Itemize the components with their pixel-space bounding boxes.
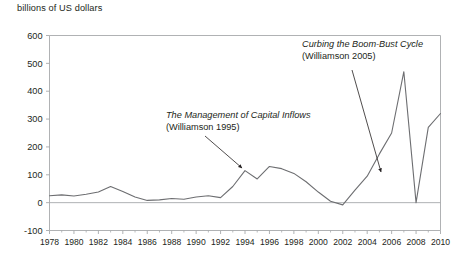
anno-2005-arrow [352, 70, 381, 172]
x-tick-label-2008: 2008 [407, 237, 426, 247]
y-tick-label-500: 500 [27, 59, 42, 69]
anno-1995-arrow [205, 136, 242, 168]
x-tick-label-1982: 1982 [89, 237, 108, 247]
y-tick-label--100: -100 [24, 226, 42, 236]
y-tick-label-0: 0 [37, 198, 42, 208]
x-tick-label-1980: 1980 [64, 237, 83, 247]
anno-2005-citation: (Williamson 2005) [302, 51, 376, 61]
x-tick-label-1990: 1990 [187, 237, 206, 247]
x-tick-label-1984: 1984 [113, 237, 132, 247]
x-tick-label-1986: 1986 [138, 237, 157, 247]
x-tick-label-2006: 2006 [382, 237, 401, 247]
x-tick-label-1978: 1978 [40, 237, 59, 247]
y-tick-label-600: 600 [27, 31, 42, 41]
x-tick-label-1988: 1988 [162, 237, 181, 247]
plot-frame [50, 36, 441, 231]
x-tick-label-2010: 2010 [431, 237, 450, 247]
line-chart-plot: 6005004003002001000-10019781980198219841… [0, 0, 462, 260]
y-tick-label-200: 200 [27, 142, 42, 152]
data-series-0 [50, 72, 441, 205]
x-tick-label-2004: 2004 [358, 237, 377, 247]
y-tick-label-300: 300 [27, 114, 42, 124]
y-tick-label-400: 400 [27, 86, 42, 96]
x-tick-label-1994: 1994 [235, 237, 254, 247]
x-tick-label-1992: 1992 [211, 237, 230, 247]
anno-1995-citation: (Williamson 1995) [166, 122, 240, 132]
x-tick-label-1996: 1996 [260, 237, 279, 247]
chart-container: billions of US dollars 60050040030020010… [0, 0, 462, 260]
x-tick-label-2002: 2002 [333, 237, 352, 247]
anno-2005-title: Curbing the Boom-Bust Cycle [302, 39, 423, 49]
x-tick-label-1998: 1998 [284, 237, 303, 247]
y-tick-label-100: 100 [27, 170, 42, 180]
anno-1995-title: The Management of Capital Inflows [166, 110, 311, 120]
x-tick-label-2000: 2000 [309, 237, 328, 247]
